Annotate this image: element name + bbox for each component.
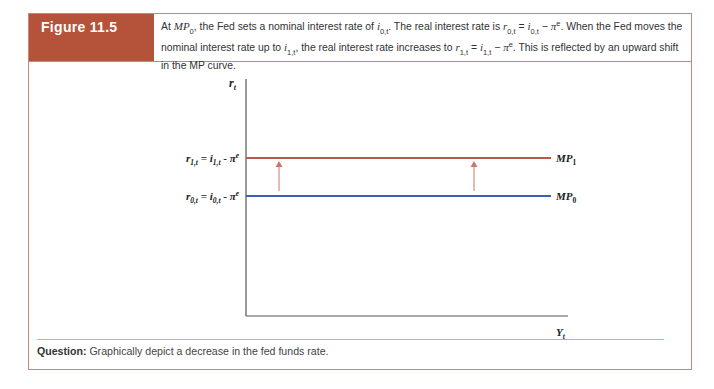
figure-frame: Figure 11.5 At MP0, the Fed sets a nomin… <box>28 13 692 370</box>
question: Question: Graphically depict a decrease … <box>37 345 328 357</box>
question-text: Graphically depict a decrease in the fed… <box>86 345 328 357</box>
question-divider <box>37 339 664 340</box>
question-label: Question: <box>37 345 86 357</box>
mp-curve-chart: rt Yt MP1 MP0 r1,t = i1,t - πe r0,t = i0… <box>29 14 691 369</box>
mp1-label: MP1 <box>555 152 577 167</box>
shift-arrow-left <box>276 161 283 191</box>
mp0-label: MP0 <box>555 190 577 205</box>
y-axis-label: rt <box>229 76 237 92</box>
shift-arrow-right <box>471 161 478 191</box>
mp1-rate-label: r1,t = i1,t - πe <box>186 151 240 167</box>
mp0-rate-label: r0,t = i0,t - πe <box>186 189 240 205</box>
